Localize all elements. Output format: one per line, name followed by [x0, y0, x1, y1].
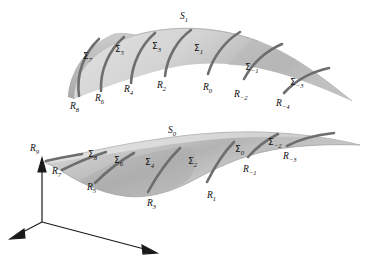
- upper-sigma-label-4: Σ−1: [245, 63, 258, 74]
- axis-vertical-arrowhead: [38, 158, 46, 172]
- lower-r-label-4-subscript: 1: [213, 195, 216, 202]
- lower-sigma-label-1-subscript: 6: [120, 160, 123, 167]
- lower-r-label-6: R−3: [283, 152, 297, 163]
- upper-r-label-1: R6: [95, 94, 104, 105]
- lower-r-label-2: R5: [87, 183, 96, 194]
- axis-left-arrowhead: [10, 229, 25, 239]
- upper-sigma-label-0-subscript: 7: [89, 56, 92, 63]
- upper-sigma-label-5: Σ−3: [290, 78, 303, 89]
- upper-r-label-2-subscript: 4: [130, 89, 133, 96]
- upper-surface-label: S1: [180, 12, 188, 23]
- upper-r-label-0-subscript: 8: [76, 106, 79, 113]
- upper-r-label-3: R2: [157, 81, 166, 92]
- lower-r-label-5-subscript: −1: [249, 169, 257, 176]
- upper-r-label-4: R0: [203, 83, 212, 94]
- upper-sigma-label-2-subscript: 3: [158, 46, 161, 53]
- lower-sigma-label-4-subscript: 0: [241, 149, 244, 156]
- lower-r-label-0: R9: [30, 144, 39, 155]
- lower-r-label-1-subscript: 7: [58, 171, 61, 178]
- upper-r-label-2: R4: [124, 85, 133, 96]
- upper-sigma-label-3: Σ1: [194, 44, 203, 55]
- lower-r-label-2-subscript: 5: [93, 187, 96, 194]
- lower-r-label-3: R3: [147, 199, 156, 210]
- upper-r-label-0: R8: [70, 102, 79, 113]
- upper-r-label-4-subscript: 0: [209, 87, 212, 94]
- upper-r-label-3-subscript: 2: [163, 85, 166, 92]
- lower-r-label-4: R1: [207, 191, 216, 202]
- upper-sigma-label-3-subscript: 1: [200, 48, 203, 55]
- lower-r-label-1: R7: [52, 167, 61, 178]
- lower-sigma-label-2: Σ4: [145, 158, 154, 169]
- upper-r-label-5: R−2: [234, 90, 248, 101]
- surfaces-figure: [0, 0, 367, 263]
- upper-r-label-5-subscript: −2: [240, 94, 248, 101]
- upper-sigma-label-1-subscript: 5: [121, 49, 124, 56]
- upper-sigma-label-4-subscript: −1: [251, 67, 259, 74]
- upper-sigma-label-0: Σ7: [83, 52, 92, 63]
- axis-right-arrowhead: [142, 245, 157, 254]
- lower-sigma-label-4: Σ0: [235, 145, 244, 156]
- lower-sigma-label-0: Σ8: [88, 150, 97, 161]
- upper-r-label-6: R−4: [276, 99, 290, 110]
- lower-r-label-5: R−1: [243, 165, 257, 176]
- lower-sigma-label-2-subscript: 4: [151, 162, 154, 169]
- upper-surface-label-subscript: 1: [185, 16, 188, 23]
- lower-sigma-label-3-subscript: 2: [194, 161, 197, 168]
- lower-sigma-label-5-subscript: −2: [274, 142, 282, 149]
- lower-sigma-label-1: Σ6: [114, 156, 123, 167]
- lower-surface-label-subscript: 0: [173, 130, 176, 137]
- upper-r-label-1-subscript: 6: [101, 98, 104, 105]
- lower-sigma-label-0-subscript: 8: [94, 154, 97, 161]
- lower-sigma-label-3: Σ2: [188, 157, 197, 168]
- lower-r-label-6-subscript: −3: [289, 156, 297, 163]
- lower-sigma-label-5: Σ−2: [268, 138, 281, 149]
- axis-right-line: [42, 222, 148, 250]
- upper-r-label-6-subscript: −4: [282, 103, 290, 110]
- upper-sigma-label-5-subscript: −3: [296, 82, 304, 89]
- lower-r-label-0-subscript: 9: [36, 148, 39, 155]
- upper-sigma-label-1: Σ5: [115, 45, 124, 56]
- lower-surface-label: S0: [168, 126, 176, 137]
- lower-r-label-3-subscript: 3: [153, 203, 156, 210]
- upper-sigma-label-2: Σ3: [152, 42, 161, 53]
